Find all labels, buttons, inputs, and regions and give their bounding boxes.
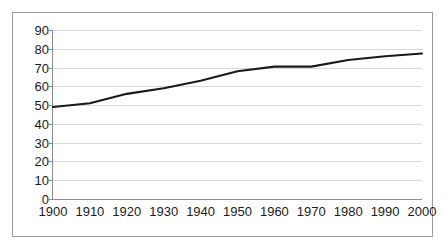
line-series	[13, 13, 434, 238]
series-polyline	[53, 53, 422, 107]
chart-figure: 0102030405060708090 19001910192019301940…	[12, 12, 433, 237]
plot-area: 0102030405060708090 19001910192019301940…	[13, 13, 434, 238]
